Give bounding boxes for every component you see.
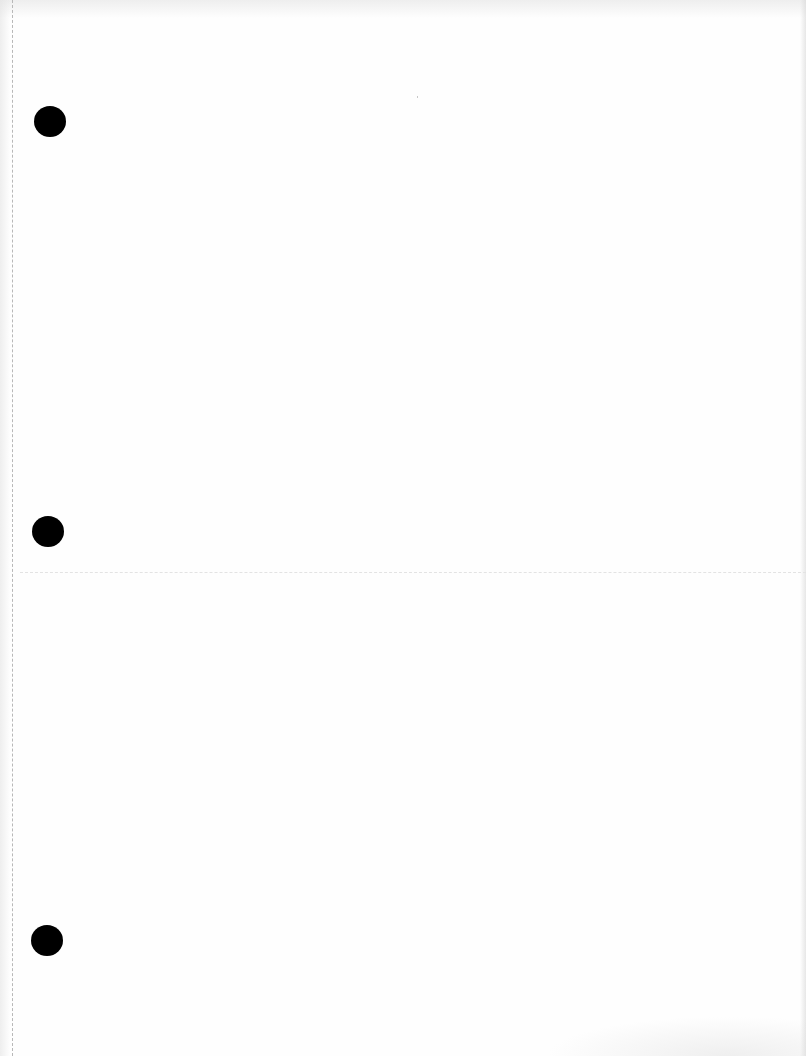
scan-noise-left: [0, 0, 10, 1056]
scan-noise-top: [0, 0, 806, 18]
binder-hole-icon: [34, 106, 66, 137]
paper-crease: [20, 572, 806, 573]
scanned-page: [0, 0, 806, 1056]
binder-hole-icon: [31, 925, 63, 956]
margin-line: [12, 0, 13, 1056]
scan-noise-right: [800, 0, 806, 1056]
scan-noise-bottom: [546, 1016, 806, 1056]
scan-speck: [417, 96, 418, 98]
binder-hole-icon: [32, 516, 64, 547]
